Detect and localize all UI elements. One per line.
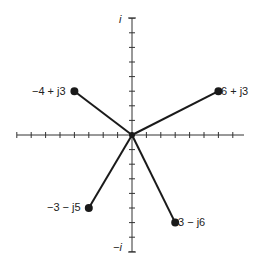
phasor-point [71, 88, 77, 94]
complex-plane [0, 0, 258, 268]
imag-pos-label: i [119, 14, 121, 25]
phasor-line [89, 135, 132, 208]
imag-neg-label: −i [113, 242, 122, 253]
phasor-line [132, 135, 175, 223]
point-label-3-j6: 3 − j6 [178, 217, 205, 228]
phasor-point [86, 205, 92, 211]
phasor-line [132, 91, 218, 135]
point-label-neg3-j5: −3 − j5 [47, 202, 81, 213]
phasor-line [74, 91, 132, 135]
point-label-6-j3: 6 + j3 [221, 86, 248, 97]
point-label-neg4-j3: −4 + j3 [32, 86, 66, 97]
